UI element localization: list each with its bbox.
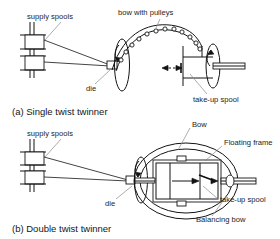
leader-die-b <box>116 186 132 199</box>
label-take-up-spool-a: take-up spool <box>193 95 239 104</box>
take-up-spool-a <box>183 44 245 88</box>
supply-spool-upper <box>20 22 46 56</box>
panel-b-double-twist-twinner: supply spools die Bow Floating frame tak… <box>12 120 273 234</box>
label-floating-frame: Floating frame <box>224 138 273 147</box>
leader-supply-spools-b <box>45 139 61 157</box>
leader-supply-spools-a <box>45 22 61 40</box>
label-bow-with-pulleys: bow with pulleys <box>118 8 173 17</box>
caption-panel-a: (a) Single twist twinner <box>12 106 108 117</box>
strand-converge-a <box>44 40 110 66</box>
label-die-b: die <box>105 199 115 208</box>
die-block-a <box>107 61 117 69</box>
leader-takeup-a <box>190 74 207 94</box>
traverse-arrow-a <box>162 63 182 73</box>
leader-die-a <box>95 70 110 84</box>
twinner-diagram: supply spools die bow with pulleys take-… <box>0 0 280 239</box>
leader-bow-a <box>156 19 160 28</box>
label-supply-spools-a: supply spools <box>27 12 73 21</box>
shaft-right-b <box>221 175 256 187</box>
shaft-left-b <box>135 178 155 183</box>
label-die-a: die <box>86 84 96 93</box>
label-balancing-bow: Balancing bow <box>196 215 246 224</box>
supply-spool-lower <box>20 56 46 78</box>
label-supply-spools-b: supply spools <box>27 129 73 138</box>
label-take-up-spool-b: take-up spool <box>220 195 266 204</box>
figure-root: supply spools die bow with pulleys take-… <box>0 0 280 239</box>
strand-converge-b <box>44 157 128 181</box>
label-bow-b: Bow <box>192 120 207 129</box>
caption-panel-b: (b) Double twist twinner <box>12 223 111 234</box>
supply-spool-upper-b <box>20 139 46 171</box>
leader-bow-b <box>178 128 190 150</box>
panel-a-single-twist-twinner: supply spools die bow with pulleys take-… <box>12 8 245 117</box>
supply-spool-lower-b <box>20 171 46 192</box>
